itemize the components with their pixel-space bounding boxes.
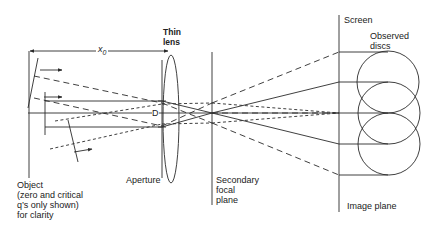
rays-to-image (212, 52, 339, 175)
sfp-label-line1: Secondary (216, 175, 259, 185)
object-label-line4: for clarity (17, 210, 83, 220)
thin-lens-label-line1: Thin (163, 27, 181, 37)
object-label-line3: q’s only shown) (17, 200, 83, 210)
object-label: Object (zero and critical q’s only shown… (17, 180, 83, 220)
object-elements (28, 58, 92, 162)
sfp-label-line2: focal (216, 185, 259, 195)
observed-discs-line1: Observed (370, 31, 409, 41)
thin-lens-label-line2: lens (163, 37, 181, 47)
x0-label: x0 (96, 44, 108, 58)
x0-subscript: 0 (103, 49, 107, 56)
aperture-diameter-label: D (152, 108, 159, 118)
screen-label: Screen (344, 15, 373, 25)
object-label-line1: Object (17, 180, 83, 190)
observed-discs-line2: discs (370, 41, 409, 51)
image-plane-label: Image plane (347, 201, 397, 211)
secondary-focal-plane-label: Secondary focal plane (216, 175, 259, 205)
thin-lens (163, 55, 179, 183)
thin-lens-label: Thin lens (163, 27, 181, 47)
sfp-label-line3: plane (216, 195, 259, 205)
aperture-label: Aperture (126, 175, 161, 185)
rays-left (34, 76, 162, 149)
observed-discs-label: Observed discs (370, 31, 409, 51)
rays-right (162, 101, 212, 127)
object-label-line2: (zero and critical (17, 190, 83, 200)
